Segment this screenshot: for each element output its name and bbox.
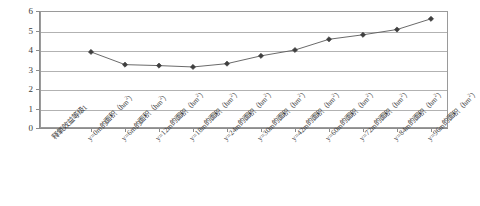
x-axis-tick-mark	[193, 128, 194, 132]
data-point-marker	[224, 61, 229, 66]
data-point-marker	[428, 16, 433, 21]
x-axis-tick-mark	[397, 128, 398, 132]
series-line	[91, 19, 431, 67]
data-point-marker	[258, 53, 263, 58]
x-axis-tick-mark	[125, 128, 126, 132]
x-axis-tick-mark	[227, 128, 228, 132]
x-axis-tick-mark	[261, 128, 262, 132]
data-point-marker	[360, 32, 365, 37]
data-point-marker	[190, 64, 195, 69]
x-axis-tick-mark	[329, 128, 330, 132]
x-axis-tick-mark	[431, 128, 432, 132]
x-axis-tick-mark	[57, 128, 58, 132]
x-axis-tick-mark	[295, 128, 296, 132]
data-point-marker	[292, 47, 297, 52]
x-axis-tick-mark	[363, 128, 364, 132]
data-point-marker	[122, 62, 127, 67]
data-point-marker	[326, 37, 331, 42]
x-axis-tick-mark	[159, 128, 160, 132]
x-axis-tick-mark	[91, 128, 92, 132]
data-point-marker	[394, 27, 399, 32]
data-point-marker	[88, 49, 93, 54]
data-point-marker	[156, 63, 161, 68]
